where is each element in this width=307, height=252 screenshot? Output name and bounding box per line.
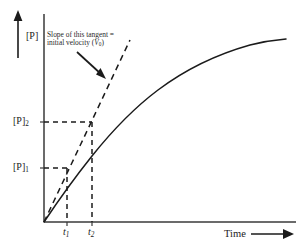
x-tick-label-t2: t2 [88, 226, 94, 239]
x-axis-label: Time [224, 228, 246, 240]
x-tick-label-t1: t1 [63, 226, 69, 239]
time-direction-arrow-icon [251, 229, 294, 239]
product-accumulation-curve [44, 39, 286, 222]
annotation-pointer-arrow-icon [77, 52, 106, 79]
annotation-line-2: initial velocity (V0) [47, 39, 114, 48]
y-tick-label-p2: [P]2 [13, 115, 29, 128]
y-tick-label-p1: [P]1 [13, 161, 29, 174]
y-axis-label: [P] [26, 30, 38, 41]
kinetics-figure: [P] [P]2 [P]1 t1 t2 Time Slope of this t… [0, 0, 307, 252]
y-axis-direction-arrow-icon [14, 10, 23, 58]
tangent-annotation-text: Slope of this tangent = initial velocity… [47, 31, 114, 49]
initial-velocity-tangent-line [44, 40, 130, 222]
